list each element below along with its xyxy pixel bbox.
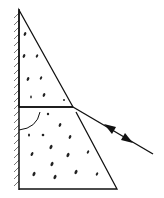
optics-diagram	[0, 0, 164, 198]
glass-speckles-upper	[22, 32, 65, 101]
angle-arc	[19, 112, 40, 130]
upper-prism	[19, 10, 73, 107]
arrow-incoming-icon	[104, 124, 116, 134]
glass-speckles-lower	[28, 113, 99, 180]
arrow-outgoing-icon	[121, 133, 133, 143]
